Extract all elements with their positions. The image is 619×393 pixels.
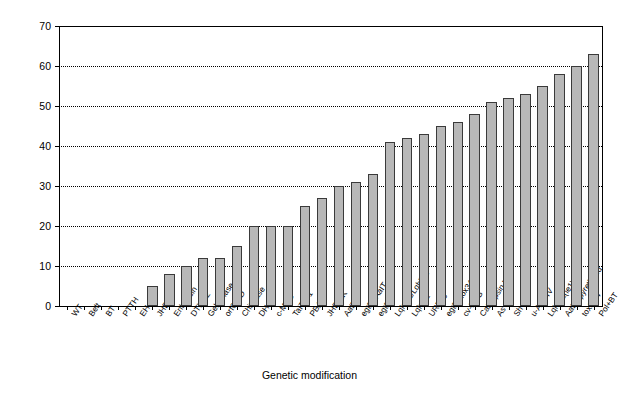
bar xyxy=(453,122,464,306)
bar xyxy=(164,274,175,306)
x-tick-mark xyxy=(254,306,255,310)
x-tick-mark xyxy=(560,306,561,310)
x-tick-mark xyxy=(424,306,425,310)
bar xyxy=(402,138,413,306)
y-tick-mark xyxy=(55,226,59,227)
bar xyxy=(419,134,430,306)
bar xyxy=(385,142,396,306)
bar xyxy=(147,286,158,306)
x-tick-mark xyxy=(373,306,374,310)
y-gridline xyxy=(59,66,602,67)
y-tick-label: 10 xyxy=(25,260,51,272)
x-tick-mark xyxy=(356,306,357,310)
x-tick-mark xyxy=(458,306,459,310)
x-tick-mark xyxy=(169,306,170,310)
bar xyxy=(503,98,514,306)
x-tick-mark xyxy=(220,306,221,310)
bar xyxy=(486,102,497,306)
bar xyxy=(351,182,362,306)
x-tick-mark xyxy=(271,306,272,310)
y-tick-label: 50 xyxy=(25,100,51,112)
bar xyxy=(266,226,277,306)
x-tick-mark xyxy=(84,306,85,310)
y-tick-label: 40 xyxy=(25,140,51,152)
bar xyxy=(588,54,599,306)
x-tick-mark xyxy=(526,306,527,310)
bar xyxy=(571,66,582,306)
x-tick-mark xyxy=(577,306,578,310)
x-tick-mark xyxy=(237,306,238,310)
bar xyxy=(283,226,294,306)
y-tick-mark xyxy=(55,106,59,107)
y-tick-mark xyxy=(55,266,59,267)
bar xyxy=(520,94,531,306)
y-tick-label: 30 xyxy=(25,180,51,192)
bar xyxy=(537,86,548,306)
y-tick-label: 60 xyxy=(25,60,51,72)
y-tick-mark xyxy=(55,26,59,27)
x-tick-mark xyxy=(407,306,408,310)
x-tick-mark xyxy=(441,306,442,310)
bar xyxy=(215,258,226,306)
x-axis-title: Genetic modification xyxy=(0,369,619,381)
y-tick-mark xyxy=(55,146,59,147)
x-tick-mark xyxy=(475,306,476,310)
x-tick-mark xyxy=(135,306,136,310)
x-tick-mark xyxy=(339,306,340,310)
bar xyxy=(368,174,379,306)
x-tick-mark xyxy=(543,306,544,310)
bar xyxy=(198,258,209,306)
bar xyxy=(232,246,243,306)
x-tick-mark xyxy=(203,306,204,310)
x-tick-mark xyxy=(390,306,391,310)
y-tick-mark xyxy=(55,66,59,67)
x-tick-mark xyxy=(509,306,510,310)
x-tick-mark xyxy=(492,306,493,310)
x-tick-mark xyxy=(101,306,102,310)
y-tick-label: 0 xyxy=(25,300,51,312)
bar-chart-figure: Improvement over wild type (%) Genetic m… xyxy=(0,0,619,393)
x-tick-mark xyxy=(186,306,187,310)
x-tick-mark xyxy=(288,306,289,310)
bar xyxy=(554,74,565,306)
bar xyxy=(181,266,192,306)
x-tick-mark xyxy=(118,306,119,310)
bar xyxy=(469,114,480,306)
y-tick-mark xyxy=(55,186,59,187)
bar xyxy=(436,126,447,306)
x-tick-mark xyxy=(67,306,68,310)
y-tick-label: 70 xyxy=(25,20,51,32)
bar xyxy=(300,206,311,306)
bar xyxy=(249,226,260,306)
y-tick-mark xyxy=(55,306,59,307)
bar xyxy=(317,198,328,306)
bar xyxy=(334,186,345,306)
x-tick-mark xyxy=(594,306,595,310)
y-tick-label: 20 xyxy=(25,220,51,232)
x-tick-mark xyxy=(305,306,306,310)
x-tick-mark xyxy=(152,306,153,310)
x-tick-mark xyxy=(322,306,323,310)
